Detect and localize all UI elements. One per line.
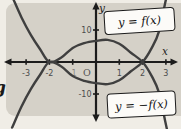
x-tick-label: 2 [140,69,145,78]
x-tick-label: 1 [117,69,122,78]
x-axis-arrow-right-icon [171,58,179,65]
origin-label: O [83,67,91,78]
y-axis-label: y [99,2,105,14]
neg-f-label-box: y = −f(x) [106,90,176,119]
f-label-box: y = f(x) [103,7,175,35]
x-tick-label: 3 [163,69,168,78]
neg-f-label: y = −f(x) [115,96,168,113]
figure: -3-2-112310-10 y = f(x) y = −f(x) x y O … [0,0,181,129]
y-tick-label: 10 [81,26,91,35]
x-axis-label: x [162,45,168,57]
x-tick-label: -2 [45,69,53,78]
page-edge-glyph: g [0,77,6,97]
x-axis-arrow-left-icon [4,58,12,65]
x-tick-label: -3 [22,69,30,78]
y-axis-arrow-down-icon [92,115,99,123]
y-tick-label: -10 [78,90,91,99]
f-label: y = f(x) [118,13,162,30]
